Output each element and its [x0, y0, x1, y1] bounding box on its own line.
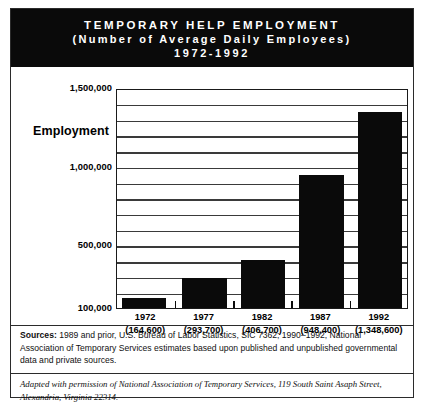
x-axis-label-year: 1982 — [233, 311, 291, 324]
x-axis-tick — [233, 301, 235, 308]
sources-text: 1989 and prior, U.S. Bureau of Labor Sta… — [20, 330, 397, 365]
x-axis-label-year: 1987 — [291, 311, 349, 324]
chart-region: Employment 1,500,0001,000,000500,000100,… — [11, 67, 413, 325]
chart-title-line-3: 1972-1992 — [174, 46, 250, 60]
adapted-note: Adapted with permission of National Asso… — [20, 378, 406, 404]
sources-divider — [11, 325, 413, 326]
x-axis-tick — [350, 301, 352, 308]
sources-note: Sources: 1989 and prior, U.S. Bureau of … — [20, 329, 406, 367]
figure-frame: TEMPORARY HELP EMPLOYMENT (Number of Ave… — [10, 8, 414, 398]
bar-1987 — [299, 175, 343, 308]
bar-1972 — [122, 298, 166, 308]
bar-1982 — [241, 260, 285, 308]
y-tick-label: 1,500,000 — [26, 83, 112, 93]
y-axis-labels: Employment 1,500,0001,000,000500,000100,… — [11, 67, 112, 325]
adapted-divider — [11, 373, 413, 374]
x-axis-label-year: 1977 — [174, 311, 232, 324]
x-axis-tick — [175, 301, 177, 308]
x-axis-label-year: 1972 — [116, 311, 174, 324]
x-axis-label-year: 1992 — [350, 311, 408, 324]
y-axis-title: Employment — [33, 124, 109, 138]
bar-1977 — [182, 278, 226, 308]
plot-area — [116, 89, 408, 309]
x-axis-tick — [291, 301, 293, 308]
y-tick-label: 1,000,000 — [26, 162, 112, 172]
bar-1992 — [358, 112, 402, 308]
chart-title-line-2: (Number of Average Daily Employees) — [73, 32, 352, 46]
chart-title-line-1: TEMPORARY HELP EMPLOYMENT — [84, 18, 340, 33]
chart-title-banner: TEMPORARY HELP EMPLOYMENT (Number of Ave… — [11, 9, 413, 67]
y-tick-label: 100,000 — [26, 303, 112, 313]
y-tick-label: 500,000 — [26, 240, 112, 250]
sources-label: Sources: — [20, 330, 57, 340]
figure-page: TEMPORARY HELP EMPLOYMENT (Number of Ave… — [0, 0, 424, 417]
gridline — [117, 105, 407, 106]
